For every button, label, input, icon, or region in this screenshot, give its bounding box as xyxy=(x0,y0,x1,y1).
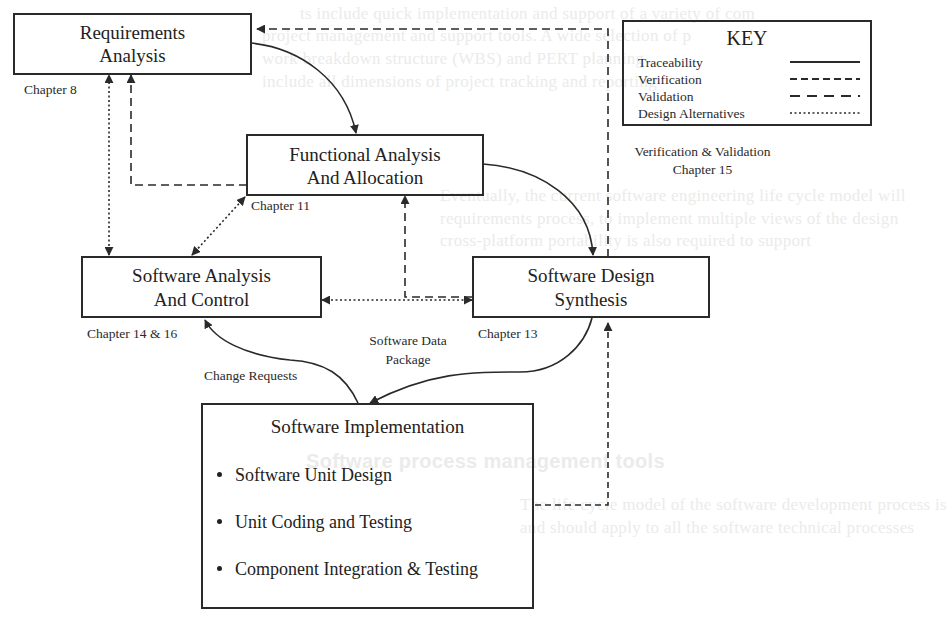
edge-label-vv-line2: Chapter 15 xyxy=(620,162,785,178)
node-software-design-synthesis: Software Design Synthesis xyxy=(472,256,710,318)
node-title-line1: Requirements xyxy=(15,21,250,44)
list-item: Software Unit Design xyxy=(213,463,478,510)
legend-entry-design-alternatives: Design Alternatives xyxy=(638,106,860,122)
node-software-analysis-control: Software Analysis And Control xyxy=(81,256,322,318)
solid-line-icon xyxy=(790,60,860,64)
bullet-icon xyxy=(217,519,222,524)
node-requirements-analysis: Requirements Analysis xyxy=(13,13,252,75)
dotted-line-icon xyxy=(790,111,860,115)
node-title-line2: And Allocation xyxy=(248,166,482,189)
legend-entry-validation: Validation xyxy=(638,89,860,105)
edge-label-data-package-line1: Software Data xyxy=(358,333,458,349)
short-dash-line-icon xyxy=(790,77,860,81)
node-title-line1: Software Design xyxy=(474,264,708,287)
chapter-label: Chapter 11 xyxy=(251,198,310,214)
edge-functional-to-design xyxy=(483,164,593,255)
long-dash-line-icon xyxy=(790,94,860,98)
legend-entry-verification: Verification xyxy=(638,72,860,88)
node-functional-analysis: Functional Analysis And Allocation xyxy=(246,134,484,196)
edge-functional-to-requirements xyxy=(131,75,247,185)
edge-implementation-to-analysis xyxy=(205,320,358,403)
list-item: Component Integration & Testing xyxy=(213,557,478,604)
edge-label-data-package-line2: Package xyxy=(358,352,458,368)
edge-analysis-functional xyxy=(192,197,245,255)
implementation-activities: Software Unit Design Unit Coding and Tes… xyxy=(213,463,478,604)
edge-requirements-to-functional xyxy=(251,43,356,133)
chapter-label: Chapter 13 xyxy=(478,326,538,342)
list-item: Unit Coding and Testing xyxy=(213,510,478,557)
chapter-label: Chapter 8 xyxy=(24,82,77,98)
node-title-line2: Synthesis xyxy=(474,288,708,311)
bullet-icon xyxy=(217,472,222,477)
edge-label-change-requests: Change Requests xyxy=(204,368,297,384)
node-title-line1: Functional Analysis xyxy=(248,143,482,166)
bullet-icon xyxy=(217,566,222,571)
node-title-line1: Software Analysis xyxy=(83,264,320,287)
node-software-implementation: Software Implementation Software Unit De… xyxy=(201,403,534,609)
chapter-label: Chapter 14 & 16 xyxy=(87,326,177,342)
edge-design-to-functional xyxy=(405,196,472,297)
edge-implementation-to-design xyxy=(535,323,608,505)
legend-entry-traceability: Traceability xyxy=(638,55,860,71)
node-title: Software Implementation xyxy=(203,415,532,438)
legend-key: KEY Traceability Verification Validation… xyxy=(622,20,872,126)
node-title-line2: Analysis xyxy=(15,44,250,67)
legend-title: KEY xyxy=(624,26,870,50)
node-title-line2: And Control xyxy=(83,288,320,311)
edge-label-vv-line1: Verification & Validation xyxy=(620,144,785,160)
